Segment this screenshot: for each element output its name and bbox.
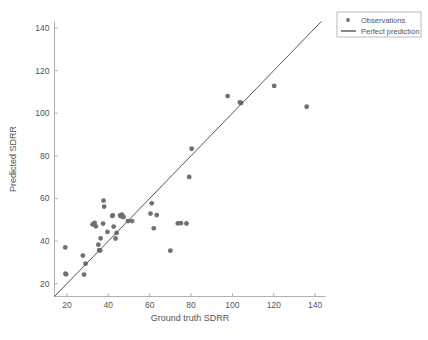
x-tick-label-60: 60 <box>145 300 155 310</box>
x-tick-label-20: 20 <box>62 300 72 310</box>
data-point <box>121 215 126 220</box>
data-point <box>178 221 183 226</box>
data-point <box>82 272 87 277</box>
legend-label-perfect-prediction: Perfect prediction <box>361 27 419 36</box>
data-point <box>154 213 159 218</box>
data-point <box>63 245 68 250</box>
legend-marker-observations <box>346 18 350 22</box>
data-point <box>130 219 135 224</box>
data-point <box>93 224 98 229</box>
data-point <box>105 230 110 235</box>
scatter-plot: 2040608010012014020406080100120140Ground… <box>0 0 428 340</box>
data-point <box>148 211 153 216</box>
y-tick-label-20: 20 <box>40 279 50 289</box>
data-point <box>272 83 277 88</box>
y-axis-title: Predicted SDRR <box>8 125 18 192</box>
data-point <box>96 242 101 247</box>
x-tick-label-120: 120 <box>267 300 281 310</box>
data-point <box>149 201 154 206</box>
data-point <box>101 221 106 226</box>
x-tick-label-40: 40 <box>104 300 114 310</box>
data-point <box>168 248 173 253</box>
data-point <box>110 213 115 218</box>
y-tick-label-40: 40 <box>40 236 50 246</box>
data-point <box>101 198 106 203</box>
data-point <box>113 236 118 241</box>
data-point <box>225 94 230 99</box>
y-tick-label-80: 80 <box>40 151 50 161</box>
data-point <box>64 272 69 277</box>
y-tick-label-140: 140 <box>35 23 49 33</box>
y-tick-label-60: 60 <box>40 193 50 203</box>
chart-figure: 2040608010012014020406080100120140Ground… <box>0 0 428 340</box>
legend-label-observations: Observations <box>361 16 405 25</box>
y-tick-label-120: 120 <box>35 66 49 76</box>
y-tick-label-100: 100 <box>35 108 49 118</box>
data-point <box>83 261 88 266</box>
data-point <box>304 104 309 109</box>
x-axis-title: Ground truth SDRR <box>151 313 230 323</box>
perfect-prediction-line <box>55 22 322 297</box>
x-tick-label-140: 140 <box>308 300 322 310</box>
observations-points <box>63 83 309 276</box>
data-point <box>184 221 189 226</box>
x-tick-label-80: 80 <box>186 300 196 310</box>
data-point <box>80 253 85 258</box>
data-point <box>189 146 194 151</box>
data-point <box>111 224 116 229</box>
data-point <box>151 226 156 231</box>
legend: ObservationsPerfect prediction <box>337 12 421 37</box>
data-point <box>98 236 103 241</box>
data-point <box>102 204 107 209</box>
x-tick-label-100: 100 <box>225 300 239 310</box>
data-point <box>187 175 192 180</box>
